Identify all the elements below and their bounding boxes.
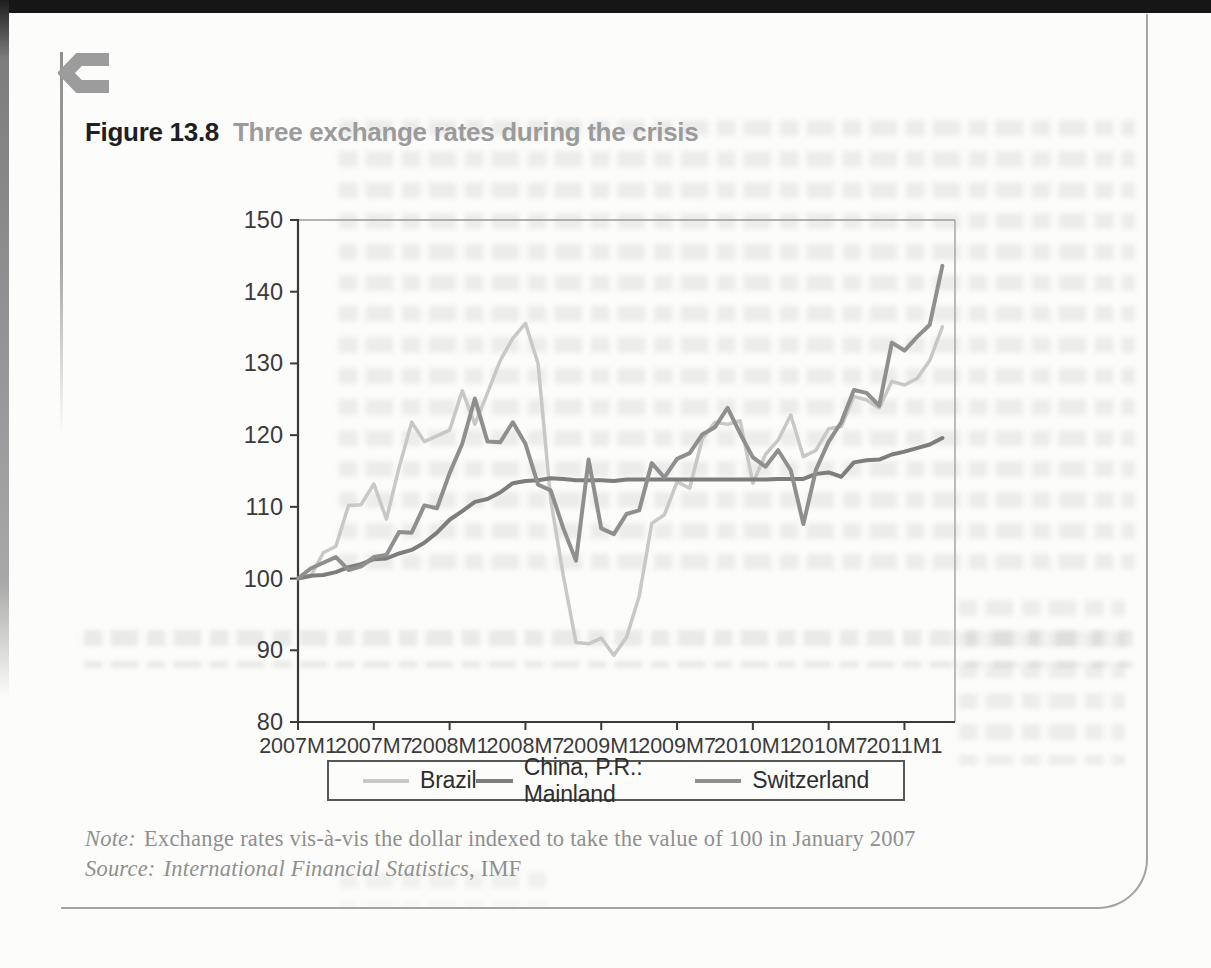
y-tick-label: 90	[257, 637, 283, 663]
note-label: Note:	[85, 826, 136, 851]
source-name: International Financial Statistics	[164, 856, 470, 881]
legend-label-switzerland: Switzerland	[752, 767, 869, 794]
legend-swatch-china-p-r-mainland	[476, 779, 512, 783]
y-tick-label: 140	[244, 279, 283, 305]
legend-label-brazil: Brazil	[420, 767, 476, 794]
y-tick-label: 120	[244, 422, 283, 448]
scan-edge-top	[0, 0, 1211, 13]
y-tick-label: 100	[244, 566, 283, 592]
y-tick-label: 80	[257, 709, 283, 735]
x-tick-label: 2010M1	[714, 734, 792, 758]
y-tick-label: 110	[246, 494, 283, 520]
legend-label-china-p-r-mainland: China, P.R.: Mainland	[524, 754, 696, 808]
figure-note: Note:Exchange rates vis-à-vis the dollar…	[85, 826, 916, 852]
source-suffix: , IMF	[469, 856, 521, 881]
scan-edge-left	[0, 0, 9, 968]
note-text: Exchange rates vis-à-vis the dollar inde…	[144, 826, 916, 851]
c-arrow-glyph-icon	[58, 52, 112, 94]
figure-number: Figure 13.8	[85, 117, 219, 147]
x-tick-label: 2007M1	[259, 734, 337, 758]
figure-source: Source:International Financial Statistic…	[85, 856, 521, 882]
legend-item-switzerland: Switzerland	[695, 767, 869, 794]
x-tick-label: 2007M7	[335, 734, 413, 758]
exchange-rate-chart: 80901001101201301401502007M12007M72008M1…	[225, 185, 985, 760]
chart-legend: BrazilChina, P.R.: MainlandSwitzerland	[327, 760, 905, 801]
y-tick-label: 150	[244, 207, 283, 233]
legend-item-brazil: Brazil	[363, 767, 476, 794]
y-tick-label: 130	[244, 350, 283, 376]
x-tick-label: 2010M7	[790, 734, 868, 758]
series-line-switzerland	[298, 266, 942, 579]
source-label: Source:	[85, 856, 156, 881]
scanned-page: Figure 13.8Three exchange rates during t…	[0, 0, 1211, 968]
series-line-china-p-r-mainland	[298, 438, 942, 579]
figure-title: Three exchange rates during the crisis	[233, 117, 698, 147]
figure-box-border-left	[60, 52, 63, 432]
figure-caption: Figure 13.8Three exchange rates during t…	[85, 117, 698, 148]
x-tick-label: 2011M1	[866, 734, 942, 758]
legend-swatch-brazil	[363, 779, 409, 783]
legend-item-china-p-r-mainland: China, P.R.: Mainland	[476, 754, 695, 808]
series-line-brazil	[298, 323, 942, 655]
legend-swatch-switzerland	[695, 779, 741, 783]
